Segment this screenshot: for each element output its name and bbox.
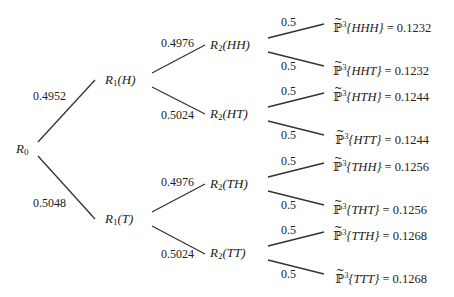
leaf-hth: ℙ3{HTH} = 0.1244	[333, 87, 429, 104]
leaf-tth: ℙ3{TTH} = 0.1268	[333, 226, 427, 243]
node-r1h: R1(H)	[105, 73, 136, 90]
edge-prob-r2tt: 0.5024	[161, 247, 194, 261]
node-r2th: R2(TH)	[210, 177, 248, 194]
edge-prob-r2th: 0.4976	[161, 175, 194, 189]
edge-prob-r1h: 0.4952	[33, 89, 66, 103]
edge-tt-ttt	[268, 260, 324, 274]
edge-prob-hth: 0.5	[281, 84, 296, 98]
leaf-hht: ℙ3{HHT} = 0.1232	[333, 61, 429, 78]
node-r0: R0	[16, 142, 28, 159]
edge-hh-hhh	[268, 24, 324, 38]
edge-ht-hth	[268, 93, 324, 107]
node-r2ht: R2(HT)	[210, 107, 248, 124]
edge-prob-tht: 0.5	[281, 198, 296, 212]
edge-ht-htt	[268, 121, 324, 135]
edge-prob-r2hh: 0.4976	[161, 36, 194, 50]
leaf-tht: ℙ3{THT} = 0.1256	[333, 200, 427, 217]
node-r1t: R1(T)	[105, 212, 133, 229]
edge-prob-r2ht: 0.5024	[161, 108, 194, 122]
edge-th-tht	[268, 191, 324, 205]
leaf-thh: ℙ3{THH} = 0.1256	[333, 157, 429, 174]
edge-prob-ttt: 0.5	[281, 267, 296, 281]
edge-prob-thh: 0.5	[281, 154, 296, 168]
leaf-ttt: ℙ3{TTT} = 0.1268	[335, 269, 427, 286]
leaf-hhh: ℙ3{HHH} = 0.1232	[333, 18, 431, 35]
edge-th-thh	[268, 163, 324, 177]
leaf-htt: ℙ3{HTT} = 0.1244	[335, 130, 429, 147]
node-r2tt: R2(TT)	[210, 246, 246, 263]
edge-prob-htt: 0.5	[281, 128, 296, 142]
edge-prob-r1t: 0.5048	[33, 196, 66, 210]
edge-prob-tth: 0.5	[281, 223, 296, 237]
edge-prob-hhh: 0.5	[281, 15, 296, 29]
edge-prob-hht: 0.5	[281, 59, 296, 73]
edge-tt-tth	[268, 232, 324, 246]
node-r2hh: R2(HH)	[210, 38, 250, 55]
edge-hh-hht	[268, 52, 324, 66]
